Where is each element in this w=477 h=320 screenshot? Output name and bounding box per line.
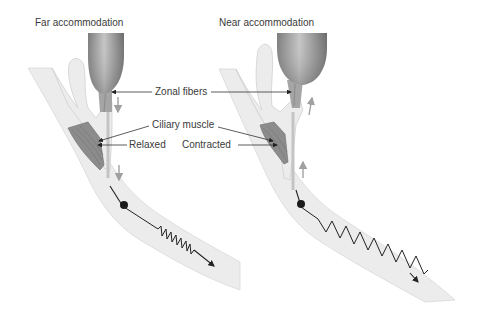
near-accommodation-title: Near accommodation	[219, 17, 314, 29]
contracted-label: Contracted	[182, 139, 231, 151]
ciliary-muscle-label: Ciliary muscle	[152, 119, 214, 131]
near-node	[297, 200, 305, 208]
far-tissue-band	[28, 68, 240, 290]
far-panel	[28, 33, 240, 290]
zonal-fibers-label: Zonal fibers	[155, 86, 207, 98]
near-panel	[219, 33, 455, 302]
far-node	[120, 201, 128, 209]
accommodation-diagram	[0, 0, 477, 320]
relaxed-label: Relaxed	[129, 139, 166, 151]
near-arrow-up-upper	[309, 98, 312, 115]
far-accommodation-title: Far accommodation	[35, 17, 123, 29]
